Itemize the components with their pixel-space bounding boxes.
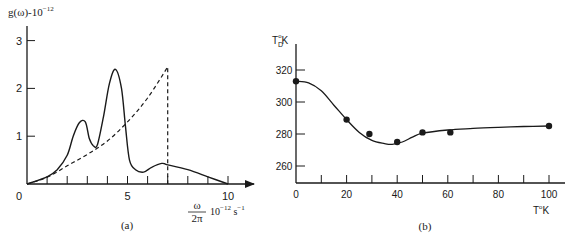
chart-b-caption: (b)	[419, 220, 432, 233]
chart-a-caption: (a)	[121, 219, 134, 232]
data-point	[546, 123, 552, 129]
chart-a-y-label: g(ω)-10−12	[8, 5, 54, 19]
data-point	[293, 78, 299, 84]
svg-text:260: 260	[276, 161, 293, 172]
svg-text:10−12 s−1: 10−12 s−1	[210, 204, 245, 217]
figure: 0510 123 g(ω)-10−12 ω 2π 10−12 s−1 (a) 0…	[0, 0, 572, 238]
chart-b-debye-temperature: 020406080100 260280300320 TDoK ToK (b)	[272, 33, 565, 233]
svg-text:80: 80	[493, 189, 505, 200]
chart-a-y-tick-labels: 123	[16, 35, 22, 143]
data-point	[419, 129, 425, 135]
data-point	[343, 116, 349, 122]
svg-text:20: 20	[341, 189, 353, 200]
svg-text:320: 320	[276, 65, 293, 76]
svg-text:60: 60	[442, 189, 454, 200]
svg-text:2π: 2π	[191, 212, 203, 224]
svg-text:ω: ω	[193, 199, 200, 211]
chart-a-x-tick-labels: 0510	[16, 190, 234, 202]
svg-text:100: 100	[541, 189, 558, 200]
svg-text:1: 1	[16, 130, 22, 142]
svg-text:0: 0	[16, 190, 22, 202]
chart-b-x-tick-labels: 020406080100	[293, 189, 558, 200]
chart-b-x-label: ToK	[533, 204, 549, 216]
data-point	[447, 129, 453, 135]
svg-text:2: 2	[16, 82, 22, 94]
chart-a-x-label: ω 2π 10−12 s−1	[188, 199, 245, 224]
chart-b-y-label: TDoK	[272, 33, 289, 48]
chart-b-y-tick-labels: 260280300320	[276, 65, 293, 172]
svg-text:0: 0	[293, 189, 299, 200]
svg-text:5: 5	[124, 190, 130, 202]
svg-text:10: 10	[222, 190, 234, 202]
chart-b-data-points	[293, 78, 552, 145]
svg-text:40: 40	[392, 189, 404, 200]
chart-b-x-ticks	[321, 175, 549, 183]
chart-a-debye-curve	[27, 67, 168, 184]
chart-a-y-ticks	[27, 41, 35, 137]
svg-text:3: 3	[16, 35, 22, 47]
data-point	[366, 131, 372, 137]
data-point	[394, 139, 400, 145]
chart-b-y-ticks	[296, 70, 305, 166]
svg-text:280: 280	[276, 129, 293, 140]
chart-a-x-ticks	[47, 176, 228, 184]
chart-a-density-of-states: 0510 123 g(ω)-10−12 ω 2π 10−12 s−1 (a)	[8, 5, 254, 232]
svg-text:300: 300	[276, 97, 293, 108]
chart-a-actual-curve	[27, 69, 228, 184]
